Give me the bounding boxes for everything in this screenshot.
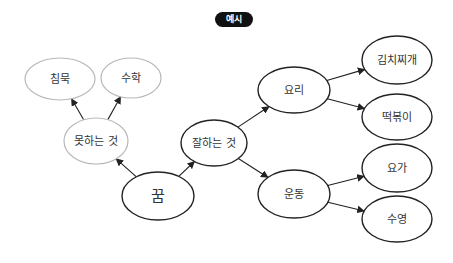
edge-arrow-cooking-to-kimchi [327,69,365,80]
node-label: 요리 [284,84,304,97]
node-label: 운동 [284,188,304,201]
node-label: 요가 [387,162,407,175]
node-good_at: 잘하는 것 [181,120,247,166]
node-cooking: 요리 [258,67,330,113]
edge-arrow-exercise-to-swim [328,202,364,211]
node-exercise: 운동 [258,170,330,218]
node-label: 떡볶이 [382,111,412,124]
node-label: 수영 [387,213,407,226]
node-label: 침묵 [50,73,70,86]
edge-arrow-cooking-to-tteok [327,99,364,109]
edge-arrow-cant_do-to-math [108,97,121,120]
edge-arrow-cant_do-to-silence [72,99,84,120]
mind-map-diagram: 꿈못하는 것침묵수학잘하는 것요리운동김치찌개떡볶이요가수영 [0,0,453,263]
edge-arrow-good_at-to-exercise [238,159,268,178]
node-swim: 수영 [362,196,432,242]
edge-arrow-good_at-to-cooking [238,107,269,128]
node-math: 수학 [101,58,161,98]
node-label: 잘하는 것 [192,136,236,150]
node-label: 꿈 [151,187,165,205]
node-cant_do: 못하는 것 [64,118,128,164]
node-dream: 꿈 [122,172,194,220]
edge-arrow-exercise-to-yoga [328,176,364,185]
edge-arrow-dream-to-cant_do [116,159,136,177]
node-tteok: 떡볶이 [362,94,432,140]
node-label: 김치찌개 [377,54,417,67]
node-yoga: 요가 [362,144,432,192]
node-label: 못하는 것 [74,134,118,148]
node-layer: 꿈못하는 것침묵수학잘하는 것요리운동김치찌개떡볶이요가수영 [25,36,432,242]
node-label: 수학 [121,72,141,85]
node-kimchi: 김치찌개 [362,36,432,84]
edge-arrow-dream-to-good_at [179,162,195,177]
node-silence: 침묵 [25,58,95,100]
